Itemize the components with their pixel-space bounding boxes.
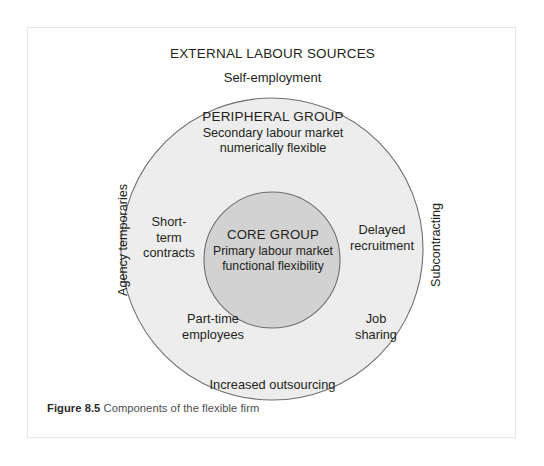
peripheral-group-heading: PERIPHERAL GROUP — [162, 109, 384, 125]
external-source-increased-outsourcing: Increased outsourcing — [28, 377, 517, 393]
flexible-firm-diagram: EXTERNAL LABOUR SOURCES Self-employment … — [28, 28, 517, 439]
peripheral-item-job-sharing: Job sharing — [340, 311, 412, 342]
peripheral-group-description: Secondary labour market numerically flex… — [152, 126, 394, 157]
figure-caption-number: Figure 8.5 — [47, 402, 100, 414]
external-source-subcontracting: Subcontracting — [429, 203, 443, 287]
figure-caption: Figure 8.5 Components of the flexible fi… — [47, 402, 487, 414]
core-group-heading: CORE GROUP — [196, 227, 350, 243]
figure-frame: EXTERNAL LABOUR SOURCES Self-employment … — [27, 27, 516, 438]
diagram-title: EXTERNAL LABOUR SOURCES — [28, 46, 517, 62]
external-source-self-employment: Self-employment — [28, 70, 517, 86]
peripheral-item-part-time-employees: Part-time employees — [163, 311, 263, 342]
figure-caption-title: Components of the flexible firm — [100, 402, 259, 414]
peripheral-item-delayed-recruitment: Delayed recruitment — [334, 222, 430, 253]
peripheral-item-short-term-contracts: Short- term contracts — [127, 214, 211, 261]
